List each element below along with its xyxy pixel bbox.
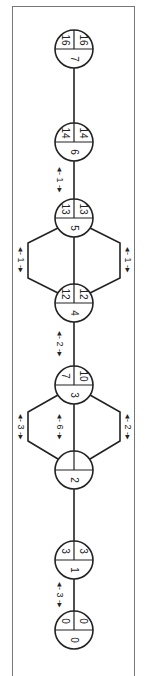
duration-label: ◂- 3 -▸ xyxy=(16,414,26,440)
node-id: 7 xyxy=(69,56,80,62)
node-late-start: 0 xyxy=(78,618,89,624)
node-id: 3 xyxy=(69,392,80,398)
node-early-start: 13 xyxy=(60,203,71,215)
node-id: 1 xyxy=(69,567,80,573)
node-3: 3710 xyxy=(55,366,93,404)
node-1: 133 xyxy=(55,541,93,579)
duration-label: ◂- 2 -▸ xyxy=(55,331,65,357)
node-late-start: 3 xyxy=(78,548,89,554)
node-early-start: 3 xyxy=(60,548,71,554)
node-early-start: 0 xyxy=(60,618,71,624)
node-id: 0 xyxy=(69,637,80,643)
node-6: 61414 xyxy=(55,123,93,161)
duration-label: ◂- 3 -▸ xyxy=(55,582,65,608)
node-5: 51313 xyxy=(55,199,93,237)
node-0: 000 xyxy=(55,611,93,649)
node-2: 2 xyxy=(55,451,93,489)
node-4: 41212 xyxy=(55,284,93,322)
node-late-start: 16 xyxy=(78,34,89,46)
duration-label: ◂- 2 -▸ xyxy=(123,414,133,440)
node-early-start: 14 xyxy=(60,127,71,139)
node-late-start: 12 xyxy=(78,288,89,300)
node-late-start: 10 xyxy=(78,370,89,382)
node-early-start: 12 xyxy=(60,288,71,300)
edge-2-3-left xyxy=(28,395,58,459)
node-id: 5 xyxy=(69,225,80,231)
node-id: 6 xyxy=(69,149,80,155)
node-early-start: 7 xyxy=(60,373,71,379)
duration-label: ◂- 1 -▸ xyxy=(16,247,26,273)
node-late-start: 14 xyxy=(78,127,89,139)
duration-label: ◂- 1 -▸ xyxy=(55,167,65,193)
edge-2-3-right xyxy=(90,395,120,459)
edge-4-5-right xyxy=(90,228,120,293)
node-id: 2 xyxy=(69,477,80,483)
edge-4-5-left xyxy=(28,228,58,293)
duration-label: ◂- 1 -▸ xyxy=(123,247,133,273)
node-id: 4 xyxy=(69,310,80,316)
node-7: 71616 xyxy=(55,30,93,68)
node-late-start: 13 xyxy=(78,203,89,215)
node-early-start: 16 xyxy=(60,34,71,46)
duration-label: ◂- 6 -▸ xyxy=(55,414,65,440)
